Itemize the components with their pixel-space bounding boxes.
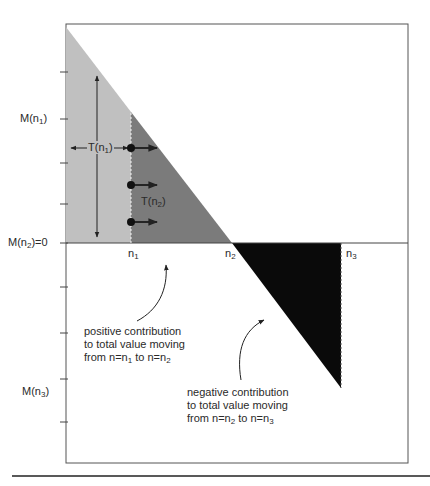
region-negative-black <box>232 243 341 388</box>
positive-contribution-note: positive contribution to total value mov… <box>84 325 185 364</box>
negative-contribution-note: negative contribution to total value mov… <box>187 386 289 425</box>
y-label-m-n1: M(n1) <box>20 112 47 125</box>
negative-annotation-arrow <box>240 320 264 380</box>
region-dark-gray <box>131 112 232 243</box>
y-label-m-n3: M(n3) <box>22 385 49 398</box>
positive-annotation-arrow <box>137 265 166 321</box>
y-label-m-n2-zero: M(n2)=0 <box>8 236 48 249</box>
x-label-n3: n3 <box>346 247 357 260</box>
region-light-gray <box>66 27 131 243</box>
label-t-n1: T(n1) <box>87 141 114 154</box>
label-t-n2: T(n2) <box>141 195 166 208</box>
x-label-n1: n1 <box>128 247 139 260</box>
x-label-n2: n2 <box>225 247 236 260</box>
